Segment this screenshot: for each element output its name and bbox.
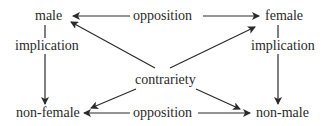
square-of-opposition-diagram: male opposition female implication impli… (0, 0, 332, 126)
relation-opposition-bottom: opposition (133, 105, 192, 121)
relation-implication-left: implication (15, 38, 79, 54)
arrow-contrariety-to-non-male (196, 89, 240, 109)
relation-opposition-top: opposition (133, 8, 192, 24)
arrow-contrariety-to-non-female (91, 89, 136, 108)
node-non-male: non-male (256, 105, 309, 121)
node-non-female: non-female (16, 105, 80, 121)
node-male: male (35, 8, 62, 24)
relation-implication-right: implication (251, 38, 315, 54)
arrow-contrariety-to-female (170, 27, 255, 68)
relation-contrariety: contrariety (135, 72, 196, 88)
arrow-contrariety-to-male (71, 22, 155, 68)
node-female: female (265, 8, 303, 24)
